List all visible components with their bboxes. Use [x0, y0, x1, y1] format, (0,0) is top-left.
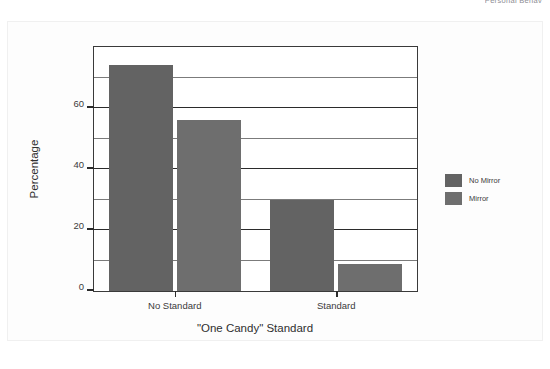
legend-swatch: [445, 174, 462, 187]
y-axis-tick-label: 60: [73, 98, 84, 109]
x-axis-tick: [336, 291, 338, 297]
x-axis-tick: [175, 291, 177, 297]
plot-area: 0204060No StandardStandard: [93, 46, 418, 292]
bar: [109, 65, 173, 291]
y-axis-tick-label: 20: [73, 220, 84, 231]
legend-label: Mirror: [469, 194, 489, 203]
y-axis-tick: [87, 167, 94, 169]
y-axis-tick: [87, 228, 94, 230]
y-axis-tick: [87, 106, 94, 108]
bar: [177, 120, 241, 291]
legend-swatch: [445, 192, 462, 205]
bar: [270, 200, 334, 292]
legend-label: No Mirror: [469, 176, 500, 185]
y-axis-tick-label: 0: [79, 281, 84, 292]
x-axis-tick-label: No Standard: [148, 300, 201, 311]
bar: [338, 264, 402, 291]
x-axis-tick-label: Standard: [317, 300, 356, 311]
running-head: Personal Behav: [485, 0, 542, 5]
chart-legend: No MirrorMirror: [445, 174, 500, 210]
legend-item: Mirror: [445, 192, 500, 205]
x-axis-title: "One Candy" Standard: [197, 322, 313, 334]
y-axis-title: Percentage: [28, 140, 40, 199]
figure-panel: Percentage 0204060No StandardStandard "O…: [8, 22, 542, 340]
y-axis-tick-label: 40: [73, 159, 84, 170]
y-axis-tick: [87, 289, 94, 291]
legend-item: No Mirror: [445, 174, 500, 187]
